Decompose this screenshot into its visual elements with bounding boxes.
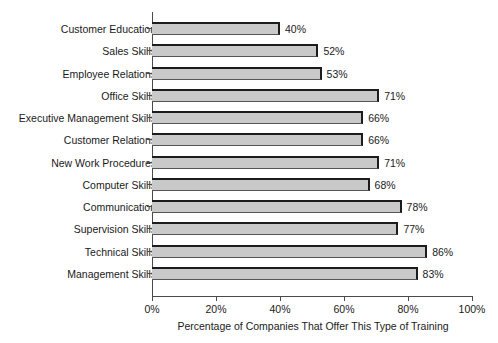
x-axis-title: Percentage of Companies That Offer This …	[0, 320, 498, 332]
x-axis-tick-label: 80%	[378, 303, 438, 315]
bar-row: Customer Education40%	[0, 21, 498, 43]
bar-value-label: 83%	[423, 267, 444, 281]
bar-row: Sales Skills52%	[0, 43, 498, 65]
bar-value-label: 77%	[403, 222, 424, 236]
x-axis-tick	[216, 296, 217, 301]
x-axis-tick	[280, 296, 281, 301]
bar-value-label: 40%	[285, 22, 306, 36]
category-label: Office Skills	[101, 88, 156, 104]
category-label: Management Skills	[67, 266, 156, 282]
bar-row: Communication78%	[0, 199, 498, 221]
bar	[152, 22, 280, 35]
x-axis-tick-label: 100%	[442, 303, 498, 315]
bar	[152, 200, 402, 213]
bar	[152, 67, 322, 80]
x-axis-title-text: Percentage of Companies That Offer This …	[49, 320, 448, 332]
bar-value-label: 86%	[432, 245, 453, 259]
bar-value-label: 71%	[384, 156, 405, 170]
bar-value-label: 66%	[368, 133, 389, 147]
x-axis-tick	[152, 296, 153, 301]
bar-value-label: 68%	[375, 178, 396, 192]
bar-rows-container: Customer Education40%Sales Skills52%Empl…	[0, 0, 498, 343]
bar-row: New Work Procedures71%	[0, 155, 498, 177]
x-axis-tick	[472, 296, 473, 301]
x-axis-tick-label: 20%	[186, 303, 246, 315]
bar-row: Employee Relations53%	[0, 66, 498, 88]
x-axis-tick	[408, 296, 409, 301]
category-label: Employee Relations	[63, 66, 156, 82]
category-label: Executive Management Skills	[19, 110, 156, 126]
x-axis-tick-label: 40%	[250, 303, 310, 315]
category-label: Customer Education	[61, 21, 156, 37]
bar-value-label: 53%	[327, 67, 348, 81]
category-label: New Work Procedures	[51, 155, 156, 171]
bar	[152, 133, 363, 146]
bar-value-label: 78%	[407, 200, 428, 214]
bar	[152, 267, 418, 280]
bar-row: Technical Skills86%	[0, 244, 498, 266]
bar-value-label: 71%	[384, 89, 405, 103]
bar-row: Supervision Skills77%	[0, 221, 498, 243]
bar	[152, 156, 379, 169]
bar	[152, 178, 370, 191]
bar	[152, 222, 398, 235]
category-label: Sales Skills	[102, 43, 156, 59]
bar-value-label: 52%	[323, 44, 344, 58]
x-axis-tick-label: 60%	[314, 303, 374, 315]
category-label: Communication	[83, 199, 156, 215]
category-label: Customer Relations	[64, 132, 156, 148]
bar	[152, 44, 318, 57]
bar-row: Executive Management Skills66%	[0, 110, 498, 132]
category-label: Supervision Skills	[74, 221, 156, 237]
x-axis-tick-label: 0%	[122, 303, 182, 315]
x-axis-tick	[344, 296, 345, 301]
bar-value-label: 66%	[368, 111, 389, 125]
bar-row: Computer Skills68%	[0, 177, 498, 199]
category-label: Technical Skills	[85, 244, 156, 260]
bar-row: Management Skills83%	[0, 266, 498, 288]
bar	[152, 245, 427, 258]
category-label: Computer Skills	[82, 177, 156, 193]
bar-row: Customer Relations66%	[0, 132, 498, 154]
bar-chart: Customer Education40%Sales Skills52%Empl…	[0, 0, 498, 343]
bar	[152, 111, 363, 124]
bar-row: Office Skills71%	[0, 88, 498, 110]
bar	[152, 89, 379, 102]
